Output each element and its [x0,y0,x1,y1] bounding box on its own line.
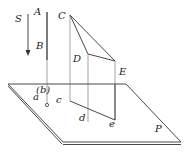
point-a [45,103,48,106]
label-b-upper: B [35,40,43,51]
label-e-upper: E [118,66,127,77]
label-d-shadow: d [79,112,85,123]
label-a-shadow: a [33,91,39,102]
arrow-s-icon [26,14,31,56]
label-e-shadow: e [109,118,115,129]
label-a-upper: A [33,6,41,17]
label-d-upper: D [72,53,81,64]
projection-diagram: S A B (b) a c C D E d e P [0,0,185,153]
label-p: P [154,123,162,134]
label-c-upper: C [58,10,66,21]
label-s: S [15,13,22,24]
label-c-shadow: c [56,94,62,105]
